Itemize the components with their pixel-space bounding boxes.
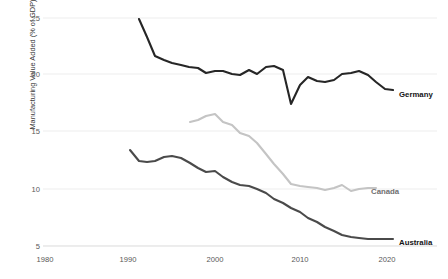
x-tick-1980: 1980 — [25, 255, 65, 264]
y-tick-20: 20 — [18, 70, 40, 79]
chart-container: Manufacturing Value Added (% of GDP) 25 … — [0, 0, 448, 279]
x-tick-1990: 1990 — [108, 255, 148, 264]
x-tick-2000: 2000 — [195, 255, 235, 264]
series-label-australia: Australia — [399, 238, 432, 247]
y-tick-10: 10 — [18, 185, 40, 194]
x-tick-2010: 2010 — [280, 255, 320, 264]
series-line-canada — [190, 114, 376, 191]
series-line-germany — [139, 19, 393, 104]
series-label-germany: Germany — [399, 90, 433, 99]
series-line-australia — [130, 150, 393, 239]
line-chart-plot — [0, 0, 448, 279]
series-label-canada: Canada — [371, 187, 399, 196]
x-tick-2020: 2020 — [367, 255, 407, 264]
y-tick-15: 15 — [18, 127, 40, 136]
y-tick-5: 5 — [18, 242, 40, 251]
y-tick-25: 25 — [18, 14, 40, 23]
